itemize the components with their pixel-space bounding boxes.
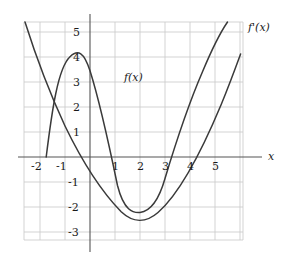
x-tick-label-minus-2: -2	[31, 161, 42, 172]
y-tick-label-3: 3	[73, 77, 80, 88]
y-tick-label-1: 1	[73, 127, 80, 138]
curve-f-prime	[25, 22, 241, 220]
x-tick-label-minus-1: -1	[56, 161, 67, 172]
x-tick-label-3: 3	[162, 161, 169, 172]
y-tick-label-minus-1: -1	[68, 177, 79, 188]
y-tick-label-5: 5	[73, 27, 80, 38]
horizontal-gridlines	[24, 32, 243, 232]
y-tick-label-minus-3: -3	[68, 227, 79, 238]
curve-label-f: f(x)	[124, 72, 143, 83]
x-tick-label-2: 2	[137, 161, 144, 172]
curve-label-f-prime: f'(x)	[248, 22, 270, 33]
plot-area	[0, 0, 289, 263]
graph-figure: 5 4 3 2 1 -1 -2 -3 -2 -1 1 2 3 4 5 f(x) …	[0, 0, 289, 263]
x-axis-label: x	[268, 151, 274, 162]
x-tick-label-5: 5	[212, 161, 219, 172]
y-tick-label-minus-2: -2	[68, 202, 79, 213]
x-tick-label-1: 1	[112, 161, 119, 172]
y-tick-label-2: 2	[73, 102, 80, 113]
y-tick-label-4: 4	[73, 52, 80, 63]
x-tick-label-4: 4	[187, 161, 194, 172]
